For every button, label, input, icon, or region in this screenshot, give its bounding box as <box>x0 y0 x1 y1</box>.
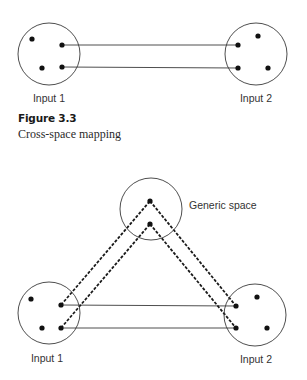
element-dot <box>233 325 238 330</box>
element-dot <box>235 65 240 70</box>
bottom-diagram: Generic space Input 1 Input 2 <box>18 178 286 365</box>
figure-number: Figure 3.3 <box>18 112 76 124</box>
dashed-link <box>61 224 150 328</box>
top-input1-space: Input 1 <box>18 23 80 104</box>
input1-circle <box>18 23 80 85</box>
input2-circle <box>224 284 286 346</box>
input1-label: Input 1 <box>31 352 63 364</box>
dashed-link <box>150 201 236 306</box>
element-dot <box>235 42 240 47</box>
element-dot <box>147 221 152 226</box>
element-dot <box>29 36 34 41</box>
element-dot <box>59 64 64 69</box>
figure-caption: Cross-space mapping <box>18 127 121 142</box>
top-diagram: Input 1 Input 2 <box>18 23 287 104</box>
element-dot <box>255 33 260 38</box>
solid-link <box>62 67 238 68</box>
element-dot <box>254 294 259 299</box>
top-solid-links <box>62 45 238 68</box>
top-input2-space: Input 2 <box>225 23 287 104</box>
generic-space: Generic space <box>120 178 257 240</box>
element-dot <box>58 325 63 330</box>
dashed-link <box>150 224 236 328</box>
input2-circle <box>225 23 287 85</box>
bottom-solid-links <box>61 305 236 328</box>
element-dot <box>59 42 64 47</box>
generic-space-circle <box>120 178 182 240</box>
solid-link <box>61 305 236 306</box>
element-dot <box>39 65 44 70</box>
cross-space-mapping-diagram: Input 1 Input 2 Generic space <box>0 0 307 380</box>
bottom-dashed-links <box>61 201 236 328</box>
element-dot <box>58 302 63 307</box>
input1-label: Input 1 <box>33 92 65 104</box>
element-dot <box>265 65 270 70</box>
input1-circle <box>18 282 80 344</box>
element-dot <box>147 198 152 203</box>
element-dot <box>233 303 238 308</box>
dashed-link <box>61 201 150 305</box>
element-dot <box>39 325 44 330</box>
element-dot <box>264 325 269 330</box>
input2-label: Input 2 <box>240 92 272 104</box>
element-dot <box>28 296 33 301</box>
input2-label: Input 2 <box>240 353 272 365</box>
generic-space-label: Generic space <box>189 199 257 211</box>
